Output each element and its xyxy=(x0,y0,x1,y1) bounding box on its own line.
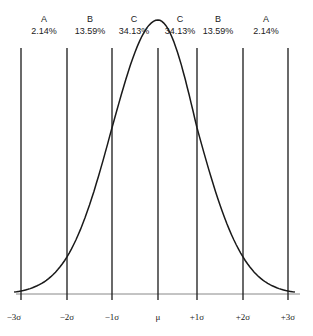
tick-label: −2σ xyxy=(60,312,75,322)
tick-label: +1σ xyxy=(190,312,205,322)
region-letter: A xyxy=(41,14,47,24)
region-letter: A xyxy=(263,14,269,24)
tick-label: +2σ xyxy=(236,312,251,322)
bell-curve xyxy=(14,20,295,292)
region-percent: 2.14% xyxy=(31,26,57,36)
region-percent: 34.13% xyxy=(165,26,196,36)
tick-label: −1σ xyxy=(105,312,120,322)
region-labels: A 2.14% B 13.59% C 34.13% C 34.13% B 13.… xyxy=(31,14,279,36)
region-letter: B xyxy=(87,14,93,24)
region-percent: 13.59% xyxy=(203,26,234,36)
region-percent: 2.14% xyxy=(253,26,279,36)
tick-label: μ xyxy=(156,312,161,322)
tick-label: +3σ xyxy=(281,312,296,322)
region-percent: 34.13% xyxy=(119,26,150,36)
region-letter: C xyxy=(131,14,138,24)
region-letter: C xyxy=(177,14,184,24)
region-letter: B xyxy=(215,14,221,24)
region-percent: 13.59% xyxy=(75,26,106,36)
normal-distribution-chart: A 2.14% B 13.59% C 34.13% C 34.13% B 13.… xyxy=(0,0,313,336)
tick-label: −3σ xyxy=(7,312,22,322)
sigma-lines xyxy=(21,48,288,300)
tick-labels: −3σ −2σ −1σ μ +1σ +2σ +3σ xyxy=(7,312,296,322)
